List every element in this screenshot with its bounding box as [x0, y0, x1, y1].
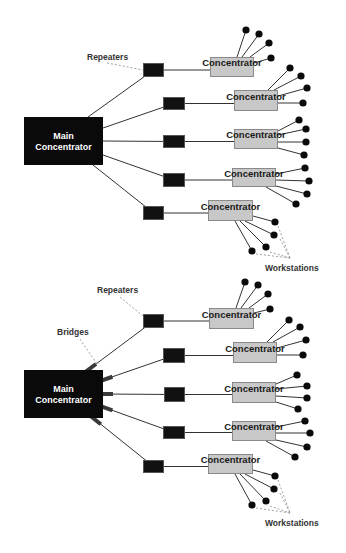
link-concentrator-to-workstation [245, 474, 274, 489]
workstation-node-icon [285, 316, 292, 323]
workstation-node-icon [295, 116, 302, 123]
workstation-node-icon [262, 243, 269, 250]
workstation-node-icon [301, 164, 308, 171]
workstation-node-icon [301, 417, 308, 424]
workstation-node-icon [303, 443, 310, 450]
link-concentrator-to-workstation [242, 34, 259, 57]
repeaters-callout-label: Repeaters [87, 52, 128, 62]
concentrator-label: Concentrator [201, 201, 261, 212]
link-concentrator-to-workstation [276, 180, 309, 181]
workstation-node-icon [262, 497, 269, 504]
diagram-without-bridges: MainConcentratorConcentratorConcentrator… [24, 26, 319, 273]
repeater-box [164, 349, 185, 363]
repeaters-callout-leader [107, 63, 143, 70]
repeater-box [144, 64, 164, 77]
workstation-node-icon [265, 39, 272, 46]
workstation-node-icon [248, 501, 255, 508]
main-concentrator-box [24, 117, 103, 165]
repeater-box [144, 207, 164, 220]
repeaters-callout-label: Repeaters [97, 285, 138, 295]
repeater-box [165, 388, 185, 402]
workstations-callout-leader [280, 239, 290, 258]
workstation-node-icon [286, 64, 293, 71]
concentrator-label: Concentrator [226, 129, 286, 140]
workstation-node-icon [302, 336, 309, 343]
link-concentrator-to-workstation [274, 76, 301, 90]
workstation-node-icon [270, 485, 277, 492]
workstation-node-icon [255, 30, 262, 37]
link-concentrator-to-workstation [276, 396, 307, 398]
workstation-node-icon [241, 278, 248, 285]
workstations-callout-leader [278, 226, 290, 258]
workstations-callout-leader [256, 508, 290, 513]
bridges-callout-leader [80, 339, 97, 364]
workstation-node-icon [296, 323, 303, 330]
link-main-to-repeater [93, 418, 154, 467]
workstation-node-icon [271, 218, 278, 225]
link-concentrator-to-workstation [245, 221, 274, 235]
repeater-box [164, 174, 185, 187]
workstations-callout-label: Workstations [265, 518, 319, 528]
workstation-node-icon [270, 231, 277, 238]
workstation-node-icon [242, 26, 249, 33]
workstation-node-icon [300, 151, 307, 158]
workstation-node-icon [266, 305, 273, 312]
main-concentrator-label-line2: Concentrator [35, 395, 92, 405]
workstation-node-icon [303, 394, 310, 401]
workstation-node-icon [292, 200, 299, 207]
workstation-node-icon [291, 453, 298, 460]
workstation-node-icon [299, 99, 306, 106]
workstation-node-icon [254, 281, 261, 288]
repeaters-callout-leader [120, 297, 143, 316]
main-concentrator-label-line1: Main [53, 384, 74, 394]
workstations-callout-leader [270, 506, 290, 513]
workstation-node-icon [306, 429, 313, 436]
repeater-box [164, 427, 185, 439]
workstation-node-icon [302, 125, 309, 132]
workstations-callout-leader [256, 254, 290, 258]
concentrator-label: Concentrator [226, 91, 286, 102]
network-diagram-canvas: MainConcentratorConcentratorConcentrator… [0, 0, 346, 553]
link-concentrator-to-workstation [278, 148, 304, 155]
workstation-node-icon [293, 371, 300, 378]
link-main-to-repeater [103, 394, 175, 395]
workstation-node-icon [299, 351, 306, 358]
diagram-with-bridges: MainConcentratorConcentratorConcentrator… [24, 278, 319, 528]
main-concentrator-label-line2: Concentrator [35, 142, 92, 152]
workstation-node-icon [294, 405, 301, 412]
repeater-box [144, 315, 164, 328]
link-concentrator-to-workstation [273, 327, 300, 342]
link-concentrator-to-workstation [241, 285, 258, 308]
bridges-callout-label: Bridges [57, 327, 89, 337]
link-main-to-repeater [93, 165, 154, 213]
link-concentrator-to-workstation [235, 474, 252, 505]
workstation-node-icon [271, 472, 278, 479]
workstations-callout-leader [278, 480, 290, 513]
concentrator-label: Concentrator [224, 383, 284, 394]
link-concentrator-to-workstation [276, 440, 307, 447]
workstation-node-icon [267, 54, 274, 61]
repeater-box [144, 461, 164, 473]
repeater-box [164, 136, 185, 148]
concentrator-label: Concentrator [202, 309, 262, 320]
concentrator-label: Concentrator [224, 168, 284, 179]
link-concentrator-to-workstation [276, 186, 307, 194]
concentrator-label: Concentrator [224, 421, 284, 432]
workstation-node-icon [303, 84, 310, 91]
main-concentrator-box [24, 370, 103, 418]
workstation-node-icon [297, 72, 304, 79]
link-concentrator-to-workstation [235, 221, 252, 251]
workstation-node-icon [248, 247, 255, 254]
link-main-to-repeater [88, 321, 154, 370]
concentrator-label: Concentrator [202, 57, 262, 68]
workstation-node-icon [264, 290, 271, 297]
concentrator-label: Concentrator [201, 454, 261, 465]
concentrator-label: Concentrator [225, 343, 285, 354]
workstation-node-icon [305, 177, 312, 184]
link-main-to-repeater [88, 70, 154, 117]
workstations-callout-label: Workstations [265, 263, 319, 273]
workstation-node-icon [303, 382, 310, 389]
workstation-node-icon [302, 138, 309, 145]
link-concentrator-to-workstation [268, 68, 290, 90]
repeater-box [164, 98, 185, 110]
